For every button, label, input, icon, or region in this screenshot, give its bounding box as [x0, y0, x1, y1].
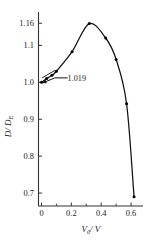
y-tick-label: 0.8 — [24, 152, 34, 161]
data-point-marker — [115, 58, 118, 61]
data-point-marker — [104, 37, 107, 40]
y-tick-label: 1.1 — [24, 41, 34, 50]
annotation-label: 1.019 — [68, 74, 86, 83]
x-tick-label: 0.6 — [126, 209, 136, 218]
data-point-marker — [50, 74, 53, 77]
data-point-marker — [55, 70, 58, 73]
data-point-marker — [88, 22, 91, 25]
y-tick-label: 0.9 — [24, 115, 34, 124]
data-point-marker — [45, 77, 48, 80]
x-tick-label: 0.4 — [96, 209, 107, 218]
y-tick-label: 1.16 — [19, 19, 34, 28]
x-tick-label: 0.2 — [66, 209, 76, 218]
line-chart: 0.70.80.91.01.11.16 00.20.40.6 1.019 D/ … — [0, 0, 146, 248]
x-tick-label: 0 — [39, 209, 43, 218]
data-point-marker — [133, 195, 136, 198]
y-tick-label: 0.7 — [24, 189, 34, 198]
data-point-marker — [71, 50, 74, 53]
x-axis-title-text: V0/ V — [81, 224, 101, 235]
y-tick-label: 1.0 — [24, 78, 34, 87]
x-axis-title: V0/ V — [81, 224, 101, 235]
data-point-marker — [125, 102, 128, 105]
chart-figure: 0.70.80.91.01.11.16 00.20.40.6 1.019 D/ … — [0, 0, 146, 248]
